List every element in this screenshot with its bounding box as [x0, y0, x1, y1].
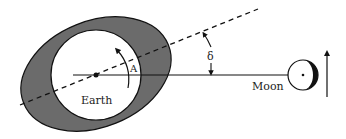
moon-center-dot — [302, 74, 305, 77]
angle-a-label: A — [129, 63, 138, 74]
earth-center-dot — [94, 73, 99, 78]
moon-label: Moon — [252, 80, 284, 93]
delta-arc-arrow-icon — [204, 34, 211, 47]
tidal-diagram: Earth Moon A δ — [0, 0, 346, 139]
earth-label: Earth — [81, 94, 112, 107]
angle-delta-label: δ — [207, 50, 214, 63]
